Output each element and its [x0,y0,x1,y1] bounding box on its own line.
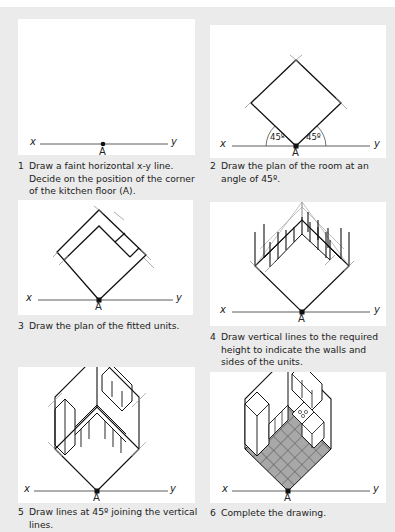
angle-right-label: 45º [306,132,321,142]
step-number: 3 [18,320,24,333]
y-label: y [176,292,182,303]
step-text: Draw lines at 45º joining the vertical l… [18,506,208,531]
step-text: Complete the drawing. [210,507,390,520]
step-number: 1 [18,160,24,173]
step-5-caption: 5 Draw lines at 45º joining the vertical… [18,506,208,531]
fitted-units-plan-diagram [18,200,193,315]
point-a-label: A [292,147,299,158]
completed-kitchen-drawing [210,372,386,503]
step-3-figure: x y A [18,200,193,315]
x-label: x [24,483,30,494]
step-text: Draw a faint horizontal x-y line. Decide… [18,160,198,198]
step-4-figure: x y A [210,202,386,326]
y-label: y [374,138,380,149]
y-label: y [374,304,380,315]
x-label: x [222,483,228,494]
step-number: 2 [210,160,216,173]
point-a-label: A [93,492,100,503]
step-5-figure: x y A [18,367,195,503]
point-a-label: A [95,301,102,312]
x-label: x [26,292,32,303]
step-1-figure: x y A [18,19,195,155]
y-label: y [171,136,177,147]
room-plan-diagram [210,25,386,158]
step-4-caption: 4 Draw vertical lines to the required he… [210,331,390,369]
step-number: 6 [210,507,216,520]
y-label: y [373,483,379,494]
step-3-caption: 3 Draw the plan of the fitted units. [18,320,198,333]
step-text: Draw the plan of the room at an angle of… [210,160,388,185]
xy-line-diagram [18,19,195,155]
step-2-figure: 45º 45º x y A [210,25,386,158]
step-text: Draw the plan of the fitted units. [18,320,198,333]
step-6-caption: 6 Complete the drawing. [210,507,390,520]
point-a-label: A [284,492,291,503]
step-6-figure: x y A [210,372,386,503]
angle-left-label: 45º [270,132,285,142]
vertical-lines-diagram [210,202,386,326]
x-label: x [30,136,36,147]
joining-lines-diagram [18,367,195,503]
x-label: x [220,304,226,315]
step-1-caption: 1 Draw a faint horizontal x-y line. Deci… [18,160,198,198]
step-text: Draw vertical lines to the required heig… [210,331,390,369]
step-number: 5 [18,506,24,519]
y-label: y [170,483,176,494]
x-label: x [220,138,226,149]
point-a-label: A [99,146,106,157]
step-number: 4 [210,331,216,344]
point-a-label: A [298,313,305,324]
step-2-caption: 2 Draw the plan of the room at an angle … [210,160,388,185]
